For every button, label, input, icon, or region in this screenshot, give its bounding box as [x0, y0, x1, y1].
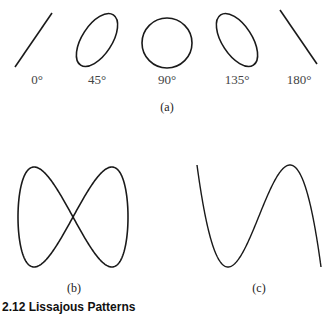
sublabel-b: (b) — [67, 281, 81, 296]
phase-label-45: 45° — [88, 72, 106, 88]
figure-eight-curve — [18, 167, 128, 267]
phase-label-0: 0° — [31, 72, 43, 88]
figure-caption: 2.12 Lissajous Patterns — [2, 300, 135, 314]
sublabel-c: (c) — [252, 281, 265, 296]
phase-45-ellipse — [68, 7, 126, 74]
three-lobe-curve — [197, 165, 321, 267]
phase-90-circle — [142, 18, 192, 68]
phase-135-ellipse — [208, 7, 266, 74]
phase-label-180: 180° — [287, 72, 312, 88]
phase-label-135: 135° — [225, 72, 250, 88]
phase-label-90: 90° — [158, 72, 176, 88]
sublabel-a: (a) — [160, 100, 173, 115]
phase-180-line — [280, 10, 317, 64]
phase-0-line — [15, 13, 52, 67]
